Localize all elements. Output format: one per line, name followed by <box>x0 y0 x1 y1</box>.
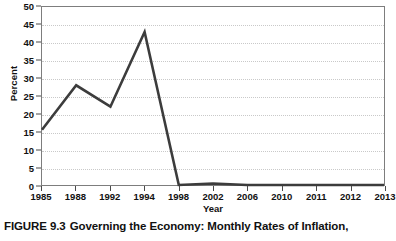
figure-number: FIGURE 9.3 <box>4 220 66 232</box>
inflation-line <box>42 32 384 185</box>
x-tick-label: 2011 <box>306 191 327 202</box>
plot-area <box>41 6 385 186</box>
x-tick-label: 2012 <box>340 191 361 202</box>
y-tick-label: 30 <box>23 73 34 84</box>
x-tick-label: 1988 <box>65 191 86 202</box>
x-tick-label: 1994 <box>134 191 155 202</box>
x-tick-label: 1985 <box>30 191 51 202</box>
figure-caption-text: Governing the Economy: Monthly Rates of … <box>70 220 349 232</box>
y-tick-label: 20 <box>23 109 34 120</box>
x-tick-label: 2010 <box>271 191 292 202</box>
x-tick-label: 2006 <box>237 191 258 202</box>
y-tick-label: 50 <box>23 1 34 12</box>
y-tick-label: 10 <box>23 145 34 156</box>
x-tick-label: 1992 <box>99 191 120 202</box>
data-series-svg <box>42 7 384 185</box>
chart-region: Percent 05101520253035404550 19851988199… <box>0 0 392 216</box>
y-tick-label: 15 <box>23 127 34 138</box>
x-axis-title: Year <box>41 203 385 214</box>
y-tick-label: 5 <box>29 163 34 174</box>
y-tick-label: 40 <box>23 37 34 48</box>
y-axis-tick-labels: 05101520253035404550 <box>14 0 34 192</box>
x-tick-label: 1998 <box>168 191 189 202</box>
figure-caption: FIGURE 9.3Governing the Economy: Monthly… <box>4 219 390 234</box>
y-tick-label: 0 <box>29 181 34 192</box>
y-tick-label: 45 <box>23 19 34 30</box>
y-tick-label: 25 <box>23 91 34 102</box>
x-tick-label: 2002 <box>202 191 223 202</box>
y-tick-label: 35 <box>23 55 34 66</box>
x-tick-label: 2013 <box>374 191 395 202</box>
